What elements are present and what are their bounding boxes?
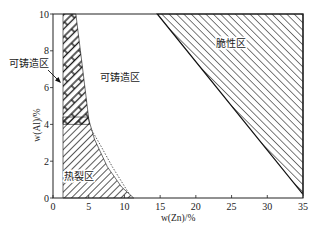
brittle-zone-label: 脆性区: [216, 37, 246, 49]
y-tick-label: 4: [44, 119, 49, 130]
phase-diagram-chart: 051015202530350246810 w(Zn)/% w(Al)/% 可铸…: [0, 0, 315, 230]
y-tick-label: 6: [44, 82, 49, 93]
hot-crack-zone: [63, 117, 134, 198]
hot-crack-zone-label: 热裂区: [64, 170, 94, 182]
x-axis-title: w(Zn)/%: [161, 213, 195, 224]
y-tick-label: 8: [44, 45, 49, 56]
regions-layer: [63, 14, 303, 198]
x-tick-label: 0: [51, 201, 56, 212]
y-tick-label: 2: [44, 156, 49, 167]
x-tick-label: 15: [155, 201, 165, 212]
y-tick-label: 0: [44, 193, 49, 204]
x-tick-label: 10: [119, 201, 129, 212]
y-tick-label: 10: [39, 9, 49, 20]
x-tick-label: 30: [262, 201, 272, 212]
castable-zone-outside-label: 可铸造区: [9, 57, 49, 69]
y-axis-title: w(Al)/%: [32, 108, 43, 141]
x-tick-label: 35: [298, 201, 308, 212]
castable-zone-label: 可铸造区: [100, 71, 140, 83]
x-tick-label: 20: [191, 201, 201, 212]
castable-boundary-strip: [63, 14, 89, 124]
x-tick-label: 25: [227, 201, 237, 212]
x-tick-label: 5: [86, 201, 91, 212]
